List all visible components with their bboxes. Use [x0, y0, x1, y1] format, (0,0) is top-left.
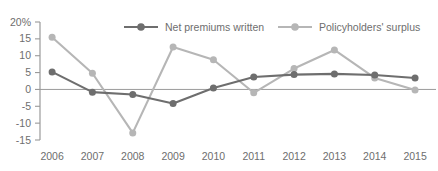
x-tick-label: 2009 [161, 150, 185, 162]
y-axis: 20%151050-5-10-15 [10, 16, 40, 146]
data-point [49, 34, 56, 41]
x-tick-label-group: 2006200720082009201020112012201320142015 [40, 150, 426, 162]
data-point [170, 43, 177, 50]
x-tick-label: 2011 [242, 150, 265, 162]
data-point [210, 85, 217, 92]
legend-swatch-marker [137, 23, 145, 31]
data-point [371, 71, 378, 78]
data-point [89, 89, 96, 96]
chart-canvas: 20%151050-5-10-15 2006200720082009201020… [0, 0, 438, 171]
y-tick-group [35, 22, 40, 140]
line-chart: 20%151050-5-10-15 2006200720082009201020… [0, 0, 438, 171]
y-tick-label: -5 [22, 100, 31, 112]
data-point [129, 91, 136, 98]
legend-swatch-marker [291, 23, 299, 31]
chart-legend: Net premiums writtenPolicyholders' surpl… [124, 21, 420, 33]
data-point [89, 70, 96, 77]
series-line [52, 37, 415, 133]
y-tick-label: 20% [10, 16, 31, 28]
x-tick-label: 2013 [323, 150, 347, 162]
legend-item: Policyholders' surplus [278, 21, 420, 33]
x-tick-label: 2012 [282, 150, 306, 162]
legend-label: Policyholders' surplus [319, 21, 420, 33]
data-point [250, 89, 257, 96]
data-point [49, 68, 56, 75]
y-tick-label-group: 20%151050-5-10-15 [10, 16, 31, 146]
series-layer [49, 34, 419, 137]
y-tick-label: -15 [16, 134, 31, 146]
y-tick-label: 5 [25, 66, 31, 78]
y-tick-label: 10 [19, 49, 31, 61]
series-net-premiums-written [49, 68, 419, 107]
data-point [331, 46, 338, 53]
legend-item: Net premiums written [124, 21, 264, 33]
x-tick-label: 2007 [81, 150, 105, 162]
y-tick-label: 15 [19, 32, 31, 44]
data-point [412, 74, 419, 81]
x-tick-label: 2015 [403, 150, 427, 162]
series-policyholders-surplus [49, 34, 419, 137]
data-point [331, 70, 338, 77]
data-point [412, 87, 419, 94]
data-point [250, 73, 257, 80]
x-tick-label: 2014 [363, 150, 387, 162]
legend-label: Net premiums written [165, 21, 264, 33]
data-point [210, 56, 217, 63]
data-point [170, 100, 177, 107]
x-tick-label: 2006 [40, 150, 64, 162]
data-point [291, 71, 298, 78]
y-tick-label: -10 [16, 117, 31, 129]
data-point [291, 65, 298, 72]
x-tick-label: 2008 [121, 150, 145, 162]
y-tick-label: 0 [25, 83, 31, 95]
data-point [129, 129, 136, 136]
x-tick-label: 2010 [202, 150, 226, 162]
